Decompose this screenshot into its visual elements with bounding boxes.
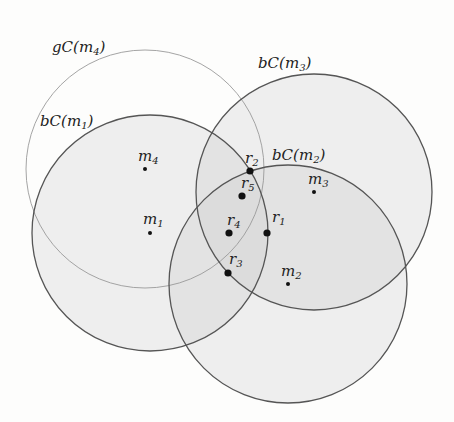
- point-r3: [224, 269, 231, 276]
- point-r5: [238, 192, 245, 199]
- center-dot-m2: [286, 282, 290, 286]
- diagram-canvas: gC(m4)bC(m1)bC(m3)bC(m2)m1m2m3m4r1r2r3r4…: [0, 0, 454, 422]
- circle-label-gC_m4: gC(m4): [52, 38, 106, 57]
- point-r4: [225, 229, 232, 236]
- circle-label-bC_m3: bC(m3): [258, 54, 312, 73]
- circle-label-bC_m1: bC(m1): [40, 112, 94, 131]
- center-dot-m3: [312, 190, 316, 194]
- center-dot-m1: [148, 231, 152, 235]
- point-r1: [263, 229, 270, 236]
- center-dot-m4: [143, 167, 147, 171]
- circle-overlap-diagram: gC(m4)bC(m1)bC(m3)bC(m2)m1m2m3m4r1r2r3r4…: [0, 0, 454, 422]
